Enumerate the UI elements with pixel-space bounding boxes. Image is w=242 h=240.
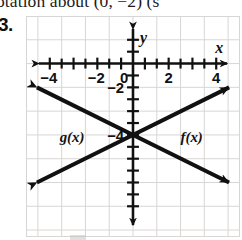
y-tick-label-minus4: −4 [107,128,125,144]
y-axis-name-label: y [138,29,148,47]
cutoff-header-text: otation about (0, −2) (s [0,0,242,11]
function-label-g: g(x) [59,129,85,146]
problem-number-label: 3. [0,14,13,36]
x-axis-name-label: x [214,39,223,56]
y-tick-label-minus2: −2 [107,80,124,96]
x-tick-label-minus2: −2 [88,70,105,86]
page-edge-artifact [70,235,86,240]
x-tick-label-4: 4 [212,70,221,86]
coordinate-plane-svg: −4 −2 0 2 4 −2 −4 y x g(x) f(x) [27,17,239,236]
x-tick-label-minus4: −4 [40,70,58,86]
function-label-f: f(x) [181,129,203,146]
x-tick-label-2: 2 [165,70,173,86]
coordinate-graph-figure: −4 −2 0 2 4 −2 −4 y x g(x) f(x) [26,16,240,237]
